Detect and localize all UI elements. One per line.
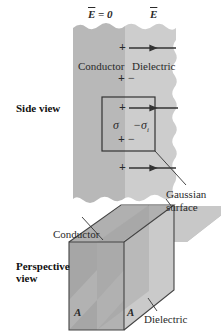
field-e-label: E bbox=[150, 8, 157, 20]
gaussian-label-line1: Gaussian bbox=[166, 188, 206, 200]
perspective-view-title-1: Perspective bbox=[16, 260, 70, 272]
area-left-label: A bbox=[74, 306, 81, 318]
conductor-region bbox=[73, 23, 125, 203]
field-zero-label: E = 0 bbox=[88, 8, 113, 20]
plus-charge-4: + bbox=[118, 133, 125, 145]
perspective-view-title-2: view bbox=[16, 272, 37, 284]
plus-charge-3: + bbox=[119, 101, 126, 113]
perspective-dielectric-label: Dielectric bbox=[144, 313, 187, 325]
plus-charge-2: + bbox=[118, 72, 125, 84]
gaussian-label-line2: surface bbox=[166, 201, 198, 213]
e-vector-symbol: E bbox=[88, 8, 95, 20]
perspective-box bbox=[69, 205, 221, 330]
plus-charge-1: + bbox=[119, 41, 126, 53]
minus-charge-4: − bbox=[128, 133, 135, 145]
plus-charge-5: + bbox=[119, 161, 126, 173]
sigma-label: σ bbox=[113, 119, 119, 131]
sigma-induced-subscript: i bbox=[147, 126, 149, 134]
perspective-conductor-label: Conductor bbox=[53, 228, 99, 240]
dielectric-label: Dielectric bbox=[132, 60, 175, 72]
equals-zero: = 0 bbox=[98, 8, 113, 20]
minus-charge-2: − bbox=[128, 72, 135, 84]
area-right-label: A bbox=[127, 306, 134, 318]
side-view-title: Side view bbox=[16, 102, 60, 114]
diagram-graphic bbox=[0, 0, 221, 336]
sigma-induced-symbol: −σ bbox=[133, 118, 147, 132]
sigma-induced-label: −σi bbox=[133, 119, 149, 136]
